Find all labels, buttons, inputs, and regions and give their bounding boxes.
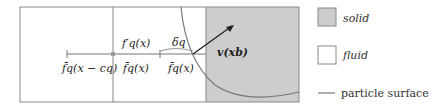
label-velocity: v(xb): [217, 46, 248, 59]
legend-solid-label: solid: [343, 12, 369, 25]
label-f-mid: f̄q(x): [122, 62, 149, 75]
legend-fluid-label: fluid: [342, 49, 368, 62]
lattice-diagram: f′q(x) δq f̄q(x − cq) f̄q(x) f̄q(x) v(xb…: [0, 0, 439, 109]
label-f-prime: f′q(x): [121, 37, 150, 50]
label-delta: δq: [172, 36, 186, 49]
label-f-left: f̄q(x − cq): [61, 62, 117, 75]
label-f-right: f̄q(x): [167, 62, 194, 75]
node-marker: [111, 52, 115, 56]
legend-solid-swatch: [318, 8, 336, 26]
legend-fluid-swatch: [318, 46, 336, 64]
legend-surface-label: particle surface: [341, 87, 429, 100]
